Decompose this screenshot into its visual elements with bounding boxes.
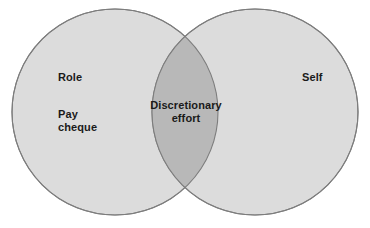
pay-cheque-label: Pay cheque xyxy=(58,108,97,134)
venn-diagram: Role Pay cheque Discretionary effort Sel… xyxy=(0,0,370,228)
discretionary-effort-label: Discretionary effort xyxy=(148,99,224,125)
self-label: Self xyxy=(302,71,323,84)
role-label: Role xyxy=(58,71,82,84)
